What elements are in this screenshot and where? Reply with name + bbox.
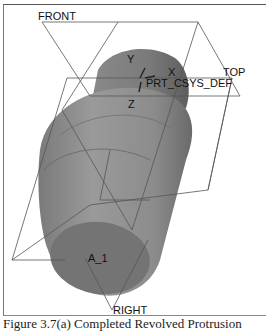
csys-name-label: PRT_CSYS_DEF (146, 77, 232, 89)
csys-z-label: Z (128, 98, 135, 110)
csys-y-label: Y (127, 53, 135, 65)
model-viewport[interactable]: FRONT TOP RIGHT Y X Z PRT_CSYS_DEF A_1 (0, 0, 267, 320)
axis-a1-label: A_1 (88, 252, 108, 264)
figure-caption: Figure 3.7(a) Completed Revolved Protrus… (3, 316, 242, 332)
model-body[interactable] (38, 88, 192, 301)
right-plane-label: RIGHT (113, 304, 148, 316)
front-plane-label: FRONT (38, 10, 76, 22)
